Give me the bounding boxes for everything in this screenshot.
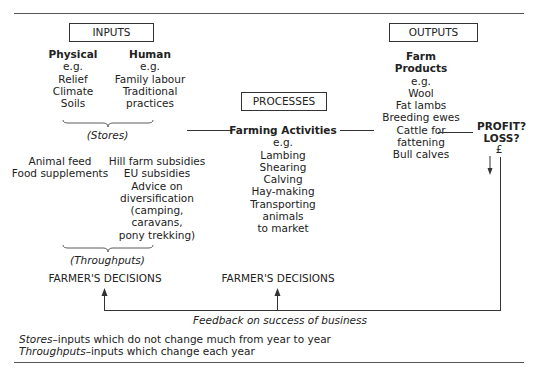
- text: practices: [110, 97, 190, 109]
- feedback-line-left: [104, 295, 105, 311]
- feedback-line-right: [500, 157, 501, 311]
- legend: Stores–inputs which do not change much f…: [19, 333, 331, 357]
- outputs-products: Farm Products e.g. Wool Fat lambs Breedi…: [376, 50, 466, 161]
- text: Advice on: [107, 180, 207, 192]
- throughputs-brace: [62, 243, 154, 253]
- text: Calving: [228, 173, 338, 185]
- farmers-decisions-label: FARMER'S DECISIONS: [40, 272, 170, 284]
- outputs-box: OUTPUTS: [389, 23, 478, 42]
- feedback-label: Feedback on success of business: [190, 314, 370, 326]
- physical-title: Physical: [38, 48, 108, 60]
- stores-brace: [62, 118, 154, 128]
- text: diversification: [107, 192, 207, 204]
- throughputs-label: (Throughputs): [55, 254, 160, 266]
- legend-term: Stores: [19, 333, 52, 345]
- text: EU subsidies: [107, 167, 207, 179]
- text: Animal feed: [10, 155, 110, 167]
- text: e.g.: [376, 75, 466, 87]
- text: e.g.: [110, 60, 190, 72]
- text: Breeding ewes: [376, 111, 466, 123]
- text: Hill farm subsidies: [107, 155, 207, 167]
- text: Soils: [38, 97, 108, 109]
- text: e.g.: [38, 60, 108, 72]
- outputs-title: Products: [376, 62, 466, 74]
- text: Food supplements: [10, 167, 110, 179]
- processes-activities: Farming Activities e.g. Lambing Shearing…: [228, 124, 338, 235]
- text: Relief: [38, 73, 108, 85]
- processes-label: PROCESSES: [253, 95, 316, 107]
- text: Lambing: [228, 149, 338, 161]
- physical-inputs: Physical e.g. Relief Climate Soils: [38, 48, 108, 109]
- text: fattening: [376, 136, 466, 148]
- human-inputs: Human e.g. Family labour Traditional pra…: [110, 48, 190, 109]
- profit-label: PROFIT?: [474, 120, 529, 132]
- farmers-decisions-label: FARMER'S DECISIONS: [213, 272, 343, 284]
- legend-definition: –inputs which change each year: [86, 345, 255, 357]
- inputs-box: INPUTS: [69, 23, 154, 42]
- text: to market: [228, 222, 338, 234]
- bottom-rule: [14, 362, 524, 363]
- up-arrow-icon: [101, 288, 108, 296]
- legend-term: Throughputs: [19, 345, 86, 357]
- text: Cattle for: [376, 124, 466, 136]
- processes-box: PROCESSES: [241, 92, 327, 111]
- legend-throughputs: Throughputs–inputs which change each yea…: [19, 345, 331, 357]
- processes-title: Farming Activities: [228, 124, 338, 136]
- text: animals: [228, 210, 338, 222]
- text: caravans,: [107, 216, 207, 228]
- connector-outputs-profit: [438, 132, 473, 133]
- down-arrow-icon: [487, 156, 493, 176]
- outputs-title: Farm: [376, 50, 466, 62]
- text: Wool: [376, 87, 466, 99]
- stores-label: (Stores): [60, 129, 155, 141]
- top-rule: [14, 13, 524, 14]
- feedback-line-mid: [277, 295, 278, 311]
- text: Family labour: [110, 73, 190, 85]
- text: e.g.: [228, 136, 338, 148]
- text: pony trekking): [107, 229, 207, 241]
- text: Climate: [38, 85, 108, 97]
- throughputs-left: Animal feed Food supplements: [10, 155, 110, 180]
- text: Fat lambs: [376, 99, 466, 111]
- inputs-label: INPUTS: [92, 26, 130, 38]
- feedback-line-bottom: [104, 310, 501, 311]
- text: (camping,: [107, 204, 207, 216]
- throughputs-right: Hill farm subsidies EU subsidies Advice …: [107, 155, 207, 241]
- connector-processes-outputs: [340, 130, 374, 131]
- outputs-label: OUTPUTS: [409, 26, 458, 38]
- profit-loss: PROFIT? LOSS?: [474, 120, 529, 145]
- text: Hay-making: [228, 185, 338, 197]
- text: Transporting: [228, 198, 338, 210]
- human-title: Human: [110, 48, 190, 60]
- text: Shearing: [228, 161, 338, 173]
- up-arrow-icon: [274, 288, 281, 296]
- text: Traditional: [110, 85, 190, 97]
- legend-definition: –inputs which do not change much from ye…: [52, 333, 330, 345]
- currency-symbol: £: [489, 143, 509, 155]
- connector-inputs-processes: [187, 130, 232, 131]
- text: Bull calves: [376, 148, 466, 160]
- legend-stores: Stores–inputs which do not change much f…: [19, 333, 331, 345]
